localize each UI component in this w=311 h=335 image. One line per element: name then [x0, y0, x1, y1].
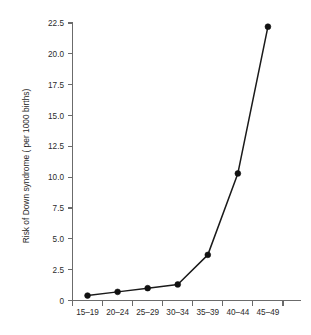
y-tick-label: 22.5: [48, 19, 64, 28]
x-tick-label: 35–39: [196, 308, 219, 317]
data-point-marker: [115, 289, 121, 295]
data-point-marker: [175, 282, 181, 288]
y-axis-title-text: Risk of Down syndrome ( per 1000 births): [21, 89, 31, 244]
data-point-marker: [265, 24, 271, 30]
y-axis-title: Risk of Down syndrome ( per 1000 births): [21, 89, 31, 244]
x-axis-labels: 15–1920–2425–2930–3435–3940–4445–49: [76, 308, 280, 317]
y-tick-label: 20.0: [48, 50, 64, 59]
data-point-marker: [205, 252, 211, 258]
x-tick-label: 40–44: [226, 308, 249, 317]
y-tick-label: 2.5: [53, 266, 65, 275]
x-tick-label: 25–29: [136, 308, 159, 317]
data-point-marker: [85, 293, 91, 299]
y-tick-label: 10.0: [48, 173, 64, 182]
x-tick-label: 20–24: [106, 308, 129, 317]
y-tick-label: 12.5: [48, 142, 64, 151]
y-tick-label: 5.0: [53, 235, 65, 244]
x-tick-label: 45–49: [257, 308, 280, 317]
y-tick-label: 15.0: [48, 112, 64, 121]
x-tick-label: 15–19: [76, 308, 99, 317]
chart-figure: Risk of Down syndrome ( per 1000 births)…: [0, 0, 311, 335]
data-point-marker: [145, 285, 151, 291]
y-tick-label: 0: [59, 297, 64, 306]
line-chart: Risk of Down syndrome ( per 1000 births)…: [0, 0, 311, 335]
data-point-marker: [235, 171, 241, 177]
y-tick-label: 7.5: [53, 204, 65, 213]
x-tick-label: 30–34: [166, 308, 189, 317]
y-tick-label: 17.5: [48, 81, 64, 90]
chart-background: [0, 0, 311, 335]
